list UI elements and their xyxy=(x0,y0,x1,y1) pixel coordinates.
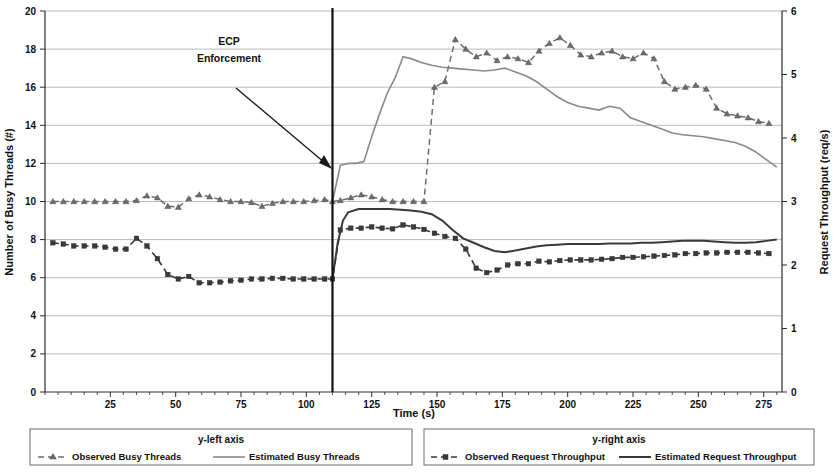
y-left-tick-label: 0 xyxy=(30,387,36,398)
series-marker xyxy=(260,277,265,282)
x-tick-label: 25 xyxy=(105,399,117,410)
y-left-tick-label: 2 xyxy=(30,348,36,359)
series-marker xyxy=(516,261,521,266)
series-marker xyxy=(599,257,604,262)
series-marker xyxy=(484,270,489,275)
legend-label-observed-busy-threads: Observed Busy Threads xyxy=(72,451,181,462)
series-marker xyxy=(249,277,254,282)
x-tick-label: 275 xyxy=(755,399,772,410)
series-marker xyxy=(756,251,761,256)
series-marker xyxy=(631,255,636,260)
y-right-tick-label: 6 xyxy=(791,6,797,17)
y-left-tick-label: 8 xyxy=(30,234,36,245)
y-left-tick-label: 12 xyxy=(25,158,37,169)
series-marker xyxy=(610,256,615,261)
series-marker xyxy=(166,272,171,277)
y-left-tick-label: 6 xyxy=(30,272,36,283)
series-marker xyxy=(558,258,563,263)
series-marker xyxy=(322,277,327,282)
series-marker xyxy=(51,240,56,245)
series-marker xyxy=(92,244,97,249)
series-marker xyxy=(228,279,233,284)
series-marker xyxy=(359,226,364,231)
series-marker xyxy=(186,274,191,279)
series-marker xyxy=(301,277,306,282)
series-marker xyxy=(134,236,139,241)
series-marker xyxy=(82,244,87,249)
series-marker xyxy=(704,251,709,256)
y-left-tick-label: 10 xyxy=(25,196,37,207)
series-marker xyxy=(239,278,244,283)
series-marker xyxy=(652,254,657,259)
series-marker xyxy=(145,244,150,249)
series-marker xyxy=(380,226,385,231)
series-marker xyxy=(71,244,76,249)
y-left-axis-title: Number of Busy Threads (#) xyxy=(3,128,15,276)
series-marker xyxy=(103,245,108,250)
series-marker xyxy=(526,261,531,266)
x-tick-label: 225 xyxy=(625,399,642,410)
series-marker xyxy=(683,251,688,256)
series-marker xyxy=(474,266,479,271)
series-marker xyxy=(348,226,353,231)
y-right-tick-label: 3 xyxy=(791,196,797,207)
x-tick-label: 125 xyxy=(363,399,380,410)
series-marker xyxy=(735,250,740,255)
series-marker xyxy=(281,276,286,281)
x-tick-label: 75 xyxy=(235,399,247,410)
y-right-tick-label: 4 xyxy=(791,133,797,144)
busy-threads-throughput-chart: 0246810121416182001234562550751001251501… xyxy=(0,0,840,472)
legend-left-title: y-left axis xyxy=(198,434,245,445)
x-tick-label: 250 xyxy=(690,399,707,410)
series-marker xyxy=(641,254,646,259)
series-marker xyxy=(270,276,275,281)
y-left-tick-label: 18 xyxy=(25,44,37,55)
x-tick-label: 50 xyxy=(170,399,182,410)
legend-right-title: y-right axis xyxy=(592,434,646,445)
series-marker xyxy=(767,251,772,256)
series-marker xyxy=(422,227,427,232)
y-left-tick-label: 4 xyxy=(30,310,36,321)
y-right-tick-label: 2 xyxy=(791,260,797,271)
series-marker xyxy=(176,277,181,282)
y-left-tick-label: 14 xyxy=(25,120,37,131)
series-marker xyxy=(693,251,698,256)
y-right-axis-title: Request Throughput (req/s) xyxy=(818,129,830,274)
chart-background xyxy=(0,0,840,472)
series-marker xyxy=(443,234,448,239)
legend-label-estimated-request-throughput: Estimated Request Throughput xyxy=(655,451,797,462)
series-marker xyxy=(673,253,678,258)
series-marker xyxy=(463,247,468,252)
series-marker xyxy=(578,258,583,263)
legend-label-estimated-busy-threads: Estimated Busy Threads xyxy=(249,451,360,462)
series-marker xyxy=(589,258,594,263)
series-marker xyxy=(401,223,406,228)
y-right-tick-label: 0 xyxy=(791,387,797,398)
series-marker xyxy=(620,255,625,260)
series-marker xyxy=(61,242,66,247)
series-marker xyxy=(113,247,118,252)
series-marker xyxy=(568,258,573,263)
x-tick-label: 200 xyxy=(559,399,576,410)
series-marker xyxy=(291,277,296,282)
series-marker xyxy=(432,231,437,236)
series-marker xyxy=(714,251,719,256)
x-tick-label: 175 xyxy=(494,399,511,410)
y-left-tick-label: 16 xyxy=(25,82,37,93)
series-marker xyxy=(662,253,667,258)
series-marker xyxy=(197,280,202,285)
series-marker xyxy=(390,227,395,232)
series-marker xyxy=(218,280,223,285)
x-tick-label: 100 xyxy=(298,399,315,410)
y-left-tick-label: 20 xyxy=(25,6,37,17)
y-right-tick-label: 5 xyxy=(791,69,797,80)
series-marker xyxy=(312,277,317,282)
series-marker xyxy=(547,260,552,265)
series-marker xyxy=(453,236,458,241)
series-marker xyxy=(155,256,160,261)
series-marker xyxy=(124,247,129,252)
ecp-annotation-line2: Enforcement xyxy=(197,52,262,64)
series-marker xyxy=(411,225,416,230)
ecp-annotation-line1: ECP xyxy=(218,35,240,47)
chart-figure: 0246810121416182001234562550751001251501… xyxy=(0,0,840,472)
